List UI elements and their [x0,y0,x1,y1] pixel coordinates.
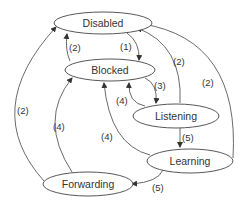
node-label: Listening [155,110,197,122]
node-listening: Listening [133,104,219,128]
node-label: Disabled [83,17,124,29]
node-blocked: Blocked [65,59,155,81]
node-label: Forwarding [62,178,115,190]
edge-label: (4) [53,121,65,132]
edge-listening-blocked [129,83,145,106]
edge-label: (4) [116,95,128,106]
edge-label: (2) [173,56,185,67]
edge-label: (5) [152,182,164,193]
node-forwarding: Forwarding [43,172,133,196]
edge-label: (1) [120,41,132,52]
edge-label: (2) [69,42,81,53]
node-label: Learning [170,155,211,167]
edge-label: (2) [17,105,29,116]
node-learning: Learning [147,149,233,173]
edge-forwarding-disabled [15,27,56,181]
node-label: Blocked [91,64,129,76]
edge-label: (2) [202,77,214,88]
node-disabled: Disabled [54,12,152,34]
edge-label: (4) [101,131,113,142]
state-diagram: (1) (2) (2) (2) (2) (3) (4) (4) (4) (5) … [0,0,245,207]
edge-label: (3) [154,80,166,91]
edge-label: (5) [182,132,194,143]
